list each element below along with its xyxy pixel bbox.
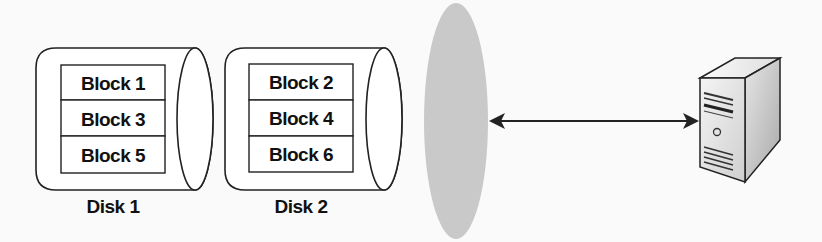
logical-volume-ellipse bbox=[424, 3, 488, 239]
disk-1-end-cap bbox=[177, 48, 213, 190]
disk-1-label: Disk 1 bbox=[87, 196, 141, 217]
disk-1-block-1: Block 1 bbox=[81, 73, 146, 94]
server-tower-icon bbox=[700, 58, 780, 182]
disk-1-block-3: Block 5 bbox=[81, 145, 146, 166]
disk-2: Block 2 Block 4 Block 6 Disk 2 bbox=[225, 48, 402, 217]
disk-1-block-2: Block 3 bbox=[81, 109, 145, 130]
disk-2-end-cap bbox=[366, 48, 402, 190]
disk-2-block-1: Block 2 bbox=[269, 72, 333, 93]
disk-2-block-2: Block 4 bbox=[269, 108, 334, 129]
disk-1: Block 1 Block 3 Block 5 Disk 1 bbox=[36, 48, 213, 217]
bidirectional-arrow-icon bbox=[489, 113, 699, 129]
disk-2-label: Disk 2 bbox=[275, 196, 328, 217]
disk-2-block-3: Block 6 bbox=[269, 144, 333, 165]
